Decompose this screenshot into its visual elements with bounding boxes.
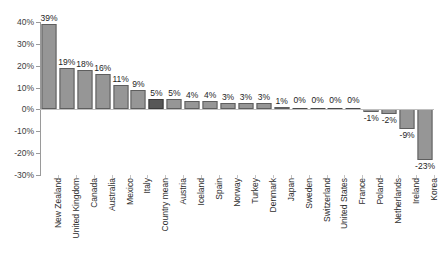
bar[interactable] [256,103,271,110]
bar-value-label: 1% [276,96,288,106]
bar-value-label: 3% [222,92,234,102]
x-label-slot: United Kingdom [58,178,76,268]
bar-group[interactable]: 11% [112,22,130,175]
y-tick-label: -30% [14,170,34,180]
bar-group[interactable]: 9% [130,22,148,175]
bar-value-label: 9% [132,79,144,89]
bar-value-label: 16% [94,63,111,73]
y-tick-label: -20% [14,148,34,158]
x-label-slot: Iceland [183,178,201,268]
x-label-slot: Ireland [398,178,416,268]
y-tick-label: -10% [14,126,34,136]
y-tick-mark [36,131,40,132]
bar-group[interactable]: 5% [165,22,183,175]
bar[interactable] [418,109,433,159]
y-tick-label: 30% [17,38,34,48]
bar-value-label: 3% [258,92,270,102]
y-tick-label: 40% [17,17,34,27]
y-tick-label: 10% [17,82,34,92]
bar-value-label: 4% [186,90,198,100]
x-label-slot: Canada [76,178,94,268]
x-label-slot: New Zealand [40,178,58,268]
x-label-slot: Australia [94,178,112,268]
bar-value-label: 4% [204,90,216,100]
bar-group[interactable]: 5% [147,22,165,175]
x-label-slot: Japan [273,178,291,268]
bar-group[interactable]: 1% [273,22,291,175]
bar-value-label: 11% [112,74,128,84]
bar[interactable] [131,90,146,110]
bar-value-label: 18% [76,59,93,69]
zero-baseline [40,109,434,110]
bar-value-label: 3% [240,92,252,102]
bar-group[interactable]: -1% [362,22,380,175]
x-label-slot: Korea [416,178,434,268]
bar-value-label: 5% [150,88,162,98]
bar-group[interactable]: 39% [40,22,58,175]
bar[interactable] [59,68,74,110]
bar[interactable] [400,109,415,129]
plot-area: 39%19%18%16%11%9%5%5%4%4%3%3%3%1%0%0%0%0… [40,22,434,175]
bar[interactable] [41,24,56,109]
y-axis-tick-labels: 40%30%20%10%0%-10%-20%-30% [0,22,36,175]
bar-value-label: -1% [364,113,379,123]
bar-value-label: -2% [382,115,397,125]
bar-group[interactable]: 4% [183,22,201,175]
bar-group[interactable]: 0% [309,22,327,175]
bar[interactable] [185,101,200,110]
bar-value-label: 19% [58,57,75,67]
bar[interactable] [221,103,236,110]
bar-value-label: 39% [40,13,57,23]
bar-group[interactable]: -2% [380,22,398,175]
x-label-slot: Denmark [255,178,273,268]
x-category-label: Korea [429,178,439,201]
bar-value-label: 0% [347,95,359,105]
bar-chart: 40%30%20%10%0%-10%-20%-30% 39%19%18%16%1… [0,0,442,270]
bar[interactable] [203,101,218,110]
bar-group[interactable]: 3% [255,22,273,175]
x-label-slot: Mexico [112,178,130,268]
bar-value-label: -9% [400,130,415,140]
bar[interactable] [167,99,182,110]
y-tick-mark [36,175,40,176]
bar-group[interactable]: 0% [291,22,309,175]
bar-value-label: 0% [294,95,306,105]
bar-group[interactable]: 19% [58,22,76,175]
bar-group[interactable]: 0% [327,22,345,175]
y-tick-mark [36,44,40,45]
bar-group[interactable]: 3% [237,22,255,175]
y-tick-mark [36,22,40,23]
bar-group[interactable]: 16% [94,22,112,175]
x-label-slot: Switzerland [309,178,327,268]
x-label-slot: Sweden [291,178,309,268]
x-label-slot: United States [327,178,345,268]
bar[interactable] [113,85,128,109]
bar-value-label: 0% [311,95,323,105]
bar-group[interactable]: -23% [416,22,434,175]
x-label-slot: Netherlands [380,178,398,268]
bar-group[interactable]: 0% [344,22,362,175]
bar-group[interactable]: -9% [398,22,416,175]
x-label-slot: Spain [201,178,219,268]
bar[interactable] [149,99,164,110]
bar[interactable] [95,74,110,109]
bar-value-label: 5% [168,88,180,98]
bar-value-label: -23% [415,161,435,171]
x-label-slot: Turkey [237,178,255,268]
bar[interactable] [77,70,92,109]
x-label-slot: Country mean [147,178,165,268]
x-label-slot: Norway [219,178,237,268]
y-tick-label: 20% [17,60,34,70]
y-tick-mark [36,88,40,89]
bar-group[interactable]: 18% [76,22,94,175]
y-tick-label: 0% [22,104,34,114]
x-axis-category-labels: New ZealandUnited KingdomCanadaAustralia… [40,178,434,268]
x-label-slot: Italy [130,178,148,268]
y-tick-mark [36,66,40,67]
x-label-slot: Austria [165,178,183,268]
bar[interactable] [238,103,253,110]
bar-group[interactable]: 3% [219,22,237,175]
x-label-slot: Poland [362,178,380,268]
x-label-slot: France [344,178,362,268]
bar-group[interactable]: 4% [201,22,219,175]
